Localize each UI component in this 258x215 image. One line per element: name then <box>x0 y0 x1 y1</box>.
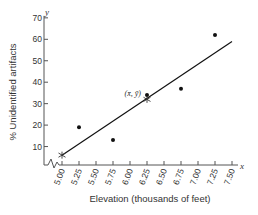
y-tick-label: 40 <box>33 77 43 87</box>
data-point <box>111 138 115 142</box>
y-axis: 10203040506070 <box>33 13 48 165</box>
x-axis-letter: x <box>239 161 244 171</box>
y-tick-label: 70 <box>33 13 43 23</box>
x-tick-label: 7.50 <box>222 167 237 186</box>
x-tick-label: 7.00 <box>188 167 203 186</box>
y-tick-label: 30 <box>33 99 43 109</box>
x-axis-line-with-break <box>44 159 238 168</box>
x-tick-label: 7.25 <box>205 167 220 186</box>
y-tick-label: 50 <box>33 56 43 66</box>
data-point <box>213 33 217 37</box>
x-tick-label: 5.00 <box>52 167 67 186</box>
x-tick-label: 5.50 <box>86 167 101 186</box>
star-marker <box>59 152 66 159</box>
data-points <box>77 33 217 142</box>
mean-point-label: (x̄, ȳ) <box>125 89 142 98</box>
data-point <box>77 125 81 129</box>
x-tick-label: 6.25 <box>137 167 152 186</box>
y-axis-title: % Unidentified artifacts <box>7 43 18 140</box>
x-axis: 5.005.255.505.756.006.256.506.757.007.25… <box>44 159 238 186</box>
x-axis-title: Elevation (thousands of feet) <box>90 193 211 204</box>
x-tick-label: 6.00 <box>120 167 135 186</box>
x-tick-label: 6.50 <box>154 167 169 186</box>
x-tick-label: 6.75 <box>171 167 186 186</box>
x-tick-label: 5.75 <box>103 167 118 186</box>
x-tick-label: 5.25 <box>69 167 84 186</box>
y-tick-label: 60 <box>33 34 43 44</box>
data-point <box>179 87 183 91</box>
y-tick-label: 10 <box>33 142 43 152</box>
y-axis-letter: y <box>44 7 49 17</box>
scatter-chart: 10203040506070 5.005.255.505.756.006.256… <box>0 0 258 215</box>
y-tick-label: 20 <box>33 120 43 130</box>
